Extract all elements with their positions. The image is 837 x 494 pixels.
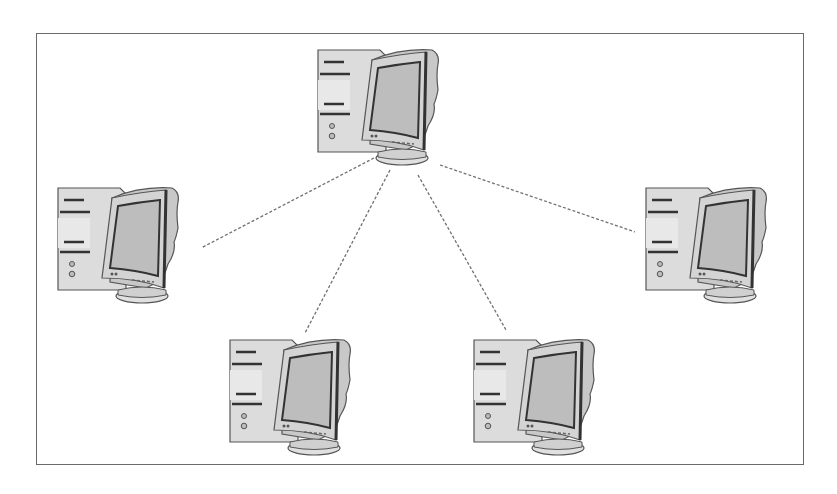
computer-node-center <box>310 40 440 170</box>
link-center-to-left <box>201 158 374 248</box>
desktop-computer-icon <box>638 178 768 308</box>
desktop-computer-icon <box>466 330 596 460</box>
link-center-to-bottom-left <box>305 170 390 333</box>
computer-node-bottom-right <box>466 330 596 460</box>
computer-node-left <box>50 178 180 308</box>
desktop-computer-icon <box>222 330 352 460</box>
link-center-to-bottom-right <box>418 175 506 330</box>
link-center-to-right <box>440 165 635 232</box>
desktop-computer-icon <box>310 40 440 170</box>
computer-node-bottom-left <box>222 330 352 460</box>
computer-node-right <box>638 178 768 308</box>
desktop-computer-icon <box>50 178 180 308</box>
